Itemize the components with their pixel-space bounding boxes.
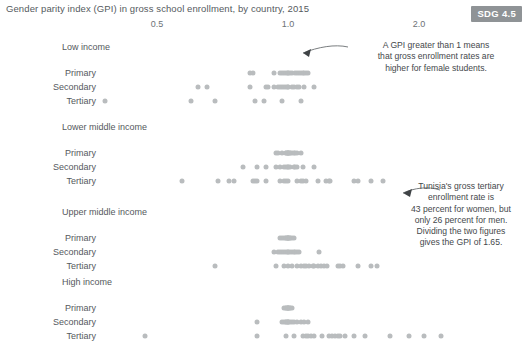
data-point	[341, 263, 346, 268]
row-label-primary: Primary	[0, 233, 96, 243]
data-point	[143, 333, 148, 338]
data-point	[302, 84, 307, 89]
data-point	[103, 98, 108, 103]
data-point	[388, 333, 393, 338]
data-point	[248, 84, 253, 89]
data-point	[204, 84, 209, 89]
x-axis-tick-0.5: 0.5	[151, 19, 164, 29]
data-point	[274, 263, 279, 268]
group-title-upper-middle-income: Upper middle income	[62, 207, 147, 217]
data-point	[263, 164, 268, 169]
page-title: Gender parity index (GPI) in gross schoo…	[6, 3, 309, 14]
data-point	[289, 305, 294, 310]
data-point	[261, 98, 266, 103]
row-label-tertiary: Tertiary	[0, 176, 96, 186]
status-badge: SDG 4.5	[471, 6, 522, 22]
data-point	[298, 98, 303, 103]
chart-canvas: Gender parity index (GPI) in gross schoo…	[0, 0, 528, 354]
data-point	[312, 84, 317, 89]
data-point	[291, 235, 296, 240]
data-point	[179, 178, 184, 183]
data-point	[305, 319, 310, 324]
data-point	[291, 333, 296, 338]
data-point	[315, 178, 320, 183]
data-point	[362, 333, 367, 338]
data-point	[407, 333, 412, 338]
data-point	[295, 164, 300, 169]
data-point	[312, 333, 317, 338]
data-point	[380, 178, 385, 183]
row-label-tertiary: Tertiary	[0, 331, 96, 341]
row-label-tertiary: Tertiary	[0, 96, 96, 106]
data-point	[305, 70, 310, 75]
data-point	[300, 164, 305, 169]
data-point	[297, 249, 302, 254]
x-axis-tick-2.0: 2.0	[413, 19, 426, 29]
data-point	[368, 263, 373, 268]
row-label-secondary: Secondary	[0, 82, 96, 92]
annotation-tunisia-note: Tunisia's gross tertiary enrollment rate…	[396, 181, 526, 249]
data-point	[374, 263, 379, 268]
data-point	[255, 164, 260, 169]
group-title-lower-middle-income: Lower middle income	[62, 122, 147, 132]
data-point	[255, 333, 260, 338]
data-point	[284, 333, 289, 338]
data-point	[342, 333, 347, 338]
row-label-secondary: Secondary	[0, 162, 96, 172]
data-point	[213, 98, 218, 103]
data-point	[263, 178, 268, 183]
data-point	[250, 70, 255, 75]
data-point	[312, 164, 317, 169]
data-point	[253, 98, 258, 103]
data-point	[213, 263, 218, 268]
data-point	[272, 70, 277, 75]
data-point	[356, 178, 361, 183]
data-point	[286, 178, 291, 183]
data-point	[304, 178, 309, 183]
data-point	[189, 98, 194, 103]
data-point	[231, 178, 236, 183]
data-point	[266, 84, 271, 89]
data-point	[325, 263, 330, 268]
data-point	[280, 98, 285, 103]
annotation-gpi-note: A GPI greater than 1 means that gross en…	[350, 40, 522, 74]
data-point	[297, 84, 302, 89]
data-point	[215, 178, 220, 183]
data-point	[255, 319, 260, 324]
group-title-low-income: Low income	[62, 42, 110, 52]
row-label-secondary: Secondary	[0, 317, 96, 327]
data-point	[317, 249, 322, 254]
data-point	[352, 333, 357, 338]
data-point	[195, 84, 200, 89]
data-point	[439, 333, 444, 338]
row-label-primary: Primary	[0, 303, 96, 313]
row-label-primary: Primary	[0, 148, 96, 158]
data-point	[320, 333, 325, 338]
row-label-primary: Primary	[0, 68, 96, 78]
x-axis-tick-1.0: 1.0	[282, 19, 295, 29]
data-point	[255, 178, 260, 183]
data-point	[421, 333, 426, 338]
data-point	[289, 263, 294, 268]
group-title-high-income: High income	[62, 277, 112, 287]
data-point	[368, 178, 373, 183]
data-point	[298, 150, 303, 155]
row-label-secondary: Secondary	[0, 247, 96, 257]
data-point	[328, 178, 333, 183]
data-point	[356, 263, 361, 268]
row-label-tertiary: Tertiary	[0, 261, 96, 271]
data-point	[241, 164, 246, 169]
